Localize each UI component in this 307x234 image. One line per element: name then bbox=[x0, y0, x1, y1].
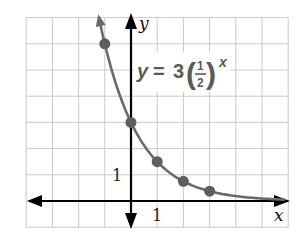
y-tick-label-1: 1 bbox=[112, 166, 122, 185]
data-point bbox=[204, 186, 215, 197]
y-axis-up-arrow-icon bbox=[125, 13, 137, 29]
equation-numerator: 1 bbox=[197, 59, 204, 73]
x-axis-left-arrow-icon bbox=[27, 195, 42, 207]
equation-coefficient: 3 bbox=[173, 60, 184, 82]
equation-denominator: 2 bbox=[197, 76, 204, 90]
data-point bbox=[126, 117, 137, 128]
equation-exponent: x bbox=[218, 54, 228, 70]
data-point bbox=[152, 156, 163, 167]
data-point bbox=[99, 38, 110, 49]
equation-label: y = 3 ( 1 2 ) x bbox=[134, 52, 230, 92]
x-tick-label-1: 1 bbox=[152, 206, 162, 225]
data-point bbox=[178, 176, 189, 187]
equation-lhs: y bbox=[136, 60, 149, 82]
x-axis-label: x bbox=[274, 205, 284, 225]
equation-left-paren: ( bbox=[186, 57, 196, 90]
equation-right-paren: ) bbox=[206, 57, 216, 90]
curve-arrow-icon bbox=[96, 14, 106, 27]
y-axis-down-arrow-icon bbox=[125, 213, 137, 229]
exponential-curve bbox=[100, 24, 285, 200]
exponential-graph: y x 1 1 y = 3 ( 1 2 ) x bbox=[0, 0, 307, 234]
grid-lines bbox=[26, 18, 288, 228]
equation-equals: = bbox=[153, 60, 165, 82]
y-axis-label: y bbox=[138, 13, 149, 33]
